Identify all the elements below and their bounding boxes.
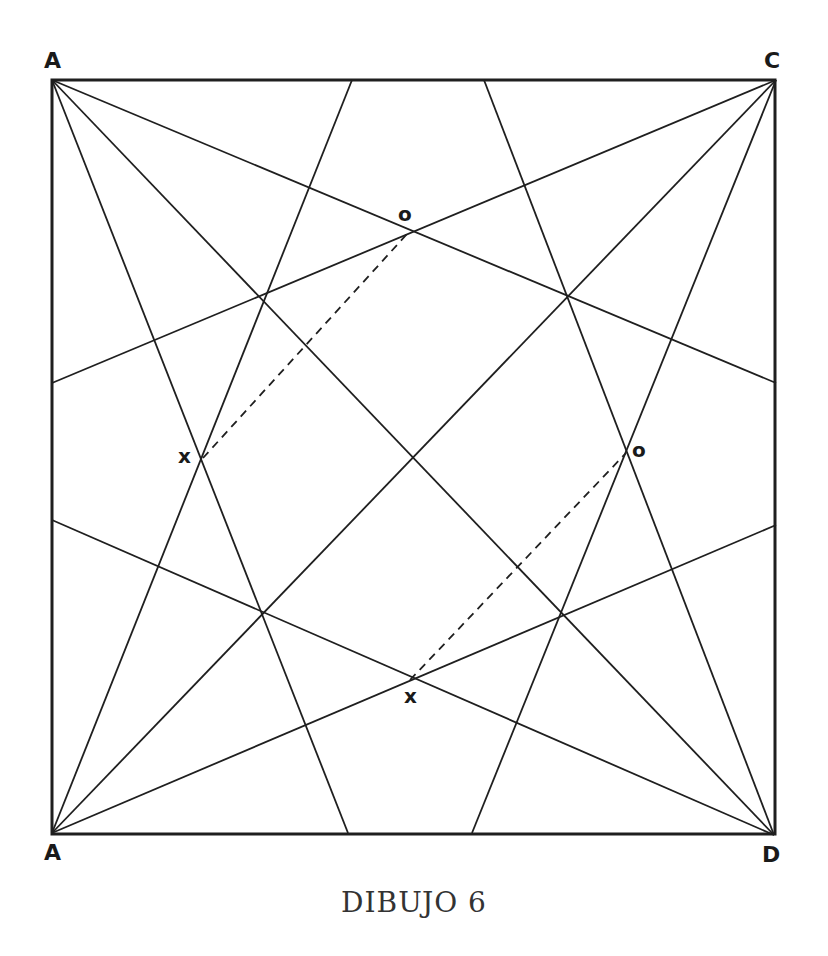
figure-caption: DIBUJO 6 xyxy=(0,886,828,919)
point-label-x-bottom: x xyxy=(404,686,417,706)
geometric-diagram xyxy=(0,0,828,956)
vertex-label-bottom-left: A xyxy=(44,842,61,864)
vertex-label-top-left: A xyxy=(44,50,61,72)
point-label-x-left: x xyxy=(178,446,191,466)
dashed-line xyxy=(203,234,407,458)
point-label-o-right: o xyxy=(632,440,646,460)
vertex-label-top-right: C xyxy=(764,50,780,72)
vertex-label-bottom-right: D xyxy=(762,844,780,866)
construction-line xyxy=(52,525,776,833)
construction-lines xyxy=(52,80,776,835)
point-label-o-top: o xyxy=(398,204,412,224)
